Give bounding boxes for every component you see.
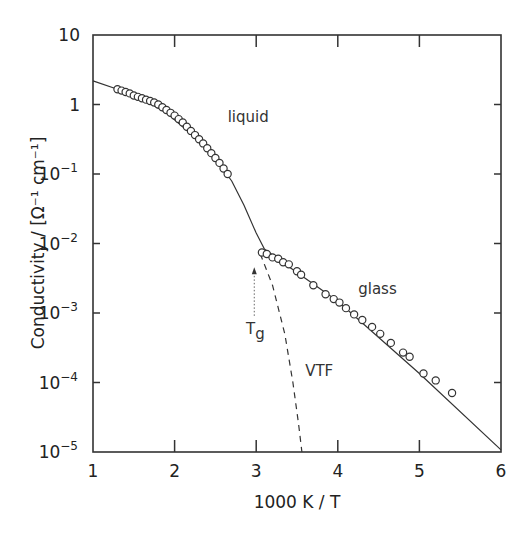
y-tick-label: 10−4	[39, 370, 78, 393]
y-axis-ticks: 10110−110−210−310−410−5	[39, 25, 501, 462]
glass-label: glass	[358, 280, 397, 298]
data-point	[432, 377, 439, 384]
vtf-label: VTF	[305, 362, 333, 380]
curves	[93, 81, 501, 452]
data-point	[359, 316, 366, 323]
data-point	[406, 353, 413, 360]
data-point	[368, 323, 375, 330]
liquid-label: liquid	[228, 108, 269, 126]
x-tick-label: 6	[496, 461, 507, 481]
annotations: liquidglassVTFTg	[228, 108, 397, 380]
data-point	[420, 370, 427, 377]
y-tick-label: 10−5	[39, 439, 78, 462]
data-point	[322, 291, 329, 298]
tg-arrow-head	[252, 267, 257, 274]
conductivity-chart: 123456 10110−110−210−310−410−5 liquidgla…	[0, 0, 530, 544]
data-point	[448, 389, 455, 396]
data-point	[351, 311, 358, 318]
y-tick-label: 10	[58, 25, 80, 45]
data-point	[224, 170, 231, 177]
fit-curve	[93, 81, 501, 450]
data-point	[387, 339, 394, 346]
data-point	[336, 299, 343, 306]
data-point	[297, 271, 304, 278]
data-point	[310, 282, 317, 289]
x-tick-label: 4	[332, 461, 343, 481]
data-point	[342, 305, 349, 312]
vtf-curve	[260, 254, 302, 452]
data-point	[377, 330, 384, 337]
x-tick-label: 5	[414, 461, 425, 481]
x-tick-label: 3	[251, 461, 262, 481]
data-point	[399, 349, 406, 356]
tg-label: Tg	[245, 320, 265, 343]
x-axis-title: 1000 K / T	[254, 492, 341, 512]
x-tick-label: 1	[88, 461, 99, 481]
plot-frame	[93, 35, 501, 452]
data-point	[285, 261, 292, 268]
y-axis-title: Conductivity / [Ω⁻¹ cm⁻¹]	[28, 137, 48, 350]
data-markers	[114, 86, 456, 397]
x-tick-label: 2	[169, 461, 180, 481]
y-tick-label: 1	[69, 95, 80, 115]
